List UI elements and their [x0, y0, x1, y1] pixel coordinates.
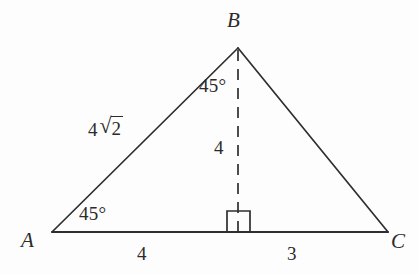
edge-BC [238, 48, 388, 232]
length-label-AB: 4 √ 2 [88, 116, 123, 139]
length-AB-coefficient: 4 [88, 116, 98, 139]
length-label-AD: 4 [137, 244, 147, 263]
length-label-altitude: 4 [214, 138, 224, 157]
vertex-label-C: C [391, 231, 405, 252]
radical-expression: √ 2 [100, 116, 124, 138]
triangle-drawing [0, 0, 418, 274]
radical-sign-icon: √ [100, 115, 112, 137]
vertex-label-A: A [21, 230, 34, 251]
angle-label-A: 45° [79, 204, 106, 223]
length-label-DC: 3 [287, 244, 297, 263]
angle-label-B: 45° [199, 76, 226, 95]
vertex-label-B: B [227, 10, 240, 31]
radicand-value: 2 [111, 116, 124, 138]
geometry-figure: A B C 45° 45° 4 3 4 4 √ 2 [0, 0, 418, 274]
